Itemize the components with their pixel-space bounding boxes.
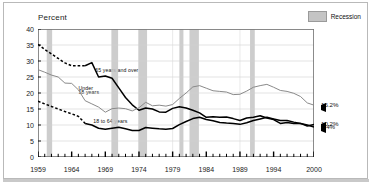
y-axis-tick-label: 10: [20, 122, 34, 129]
end-label-arrow-icon: [315, 103, 326, 112]
y-axis-tick-label: 30: [20, 58, 34, 65]
end-label-arrow-icon: [315, 124, 326, 133]
x-axis-tick-label: 2000: [294, 166, 334, 173]
series-line: [85, 63, 314, 126]
y-axis-tick-label: 35: [20, 42, 34, 49]
y-axis-tick-label: 25: [20, 74, 34, 81]
frame-shadow: [3, 179, 369, 182]
y-axis-tick-label: 0: [20, 154, 34, 161]
legend-label-recession: Recession: [331, 13, 361, 20]
y-axis-tick-label: 20: [20, 90, 34, 97]
recession-swatch-icon: [308, 11, 327, 22]
series-line-dashed: [38, 101, 85, 123]
chart-screenshot: Percent Recession 4035302520151050 19591…: [0, 0, 373, 189]
legend: Recession: [308, 11, 361, 22]
y-axis-title: Percent: [38, 13, 67, 22]
series-line-dashed: [38, 44, 85, 65]
y-axis-tick-label: 40: [20, 26, 34, 33]
chart-canvas: [38, 29, 314, 157]
y-axis-tick-label: 15: [20, 106, 34, 113]
plot-area: [38, 29, 314, 157]
series-line: [38, 70, 314, 113]
x-axis-tick-label: 1994: [254, 166, 294, 173]
y-axis-tick-label: 5: [20, 138, 34, 145]
